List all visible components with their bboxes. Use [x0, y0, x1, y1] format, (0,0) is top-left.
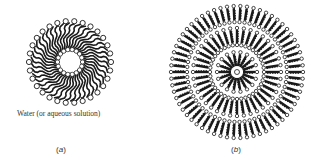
multilamellar-vesicle-diagram [169, 4, 304, 139]
water-caption: Water (or aqueous solution) [17, 109, 100, 118]
panel-letter-a: a [59, 145, 63, 154]
panel-label-a: (a) [56, 145, 66, 154]
panel-label-b: (b) [231, 145, 241, 154]
micelle-figure [0, 0, 312, 164]
panel-letter-b: b [234, 145, 238, 154]
reverse-micelle-diagram [26, 19, 113, 106]
